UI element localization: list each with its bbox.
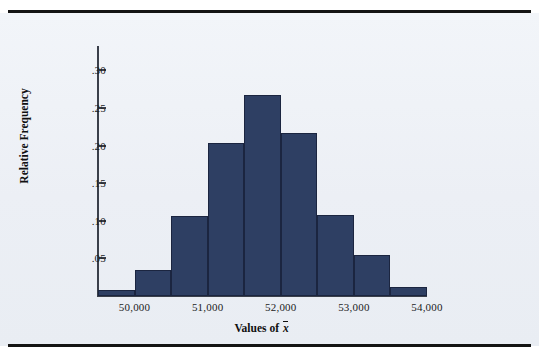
histogram-bar [135, 270, 172, 296]
histogram-bar [390, 287, 427, 296]
x-bar-symbol: x [282, 322, 290, 334]
histogram-bar [208, 143, 245, 296]
x-axis-title: Values of x [97, 322, 427, 334]
histogram-bar [354, 255, 391, 296]
histogram-bars [0, 0, 539, 359]
histogram-figure: .05.10.15.20.25.30 50,00051,00052,00053,… [0, 0, 539, 359]
y-axis-title: Relative Frequency [18, 66, 30, 206]
histogram-bar [171, 216, 208, 296]
histogram-bar [281, 133, 318, 296]
histogram-bar [317, 215, 354, 296]
x-axis-title-prefix: Values of [234, 322, 282, 334]
histogram-bar [244, 95, 281, 296]
histogram-bar [98, 290, 135, 296]
